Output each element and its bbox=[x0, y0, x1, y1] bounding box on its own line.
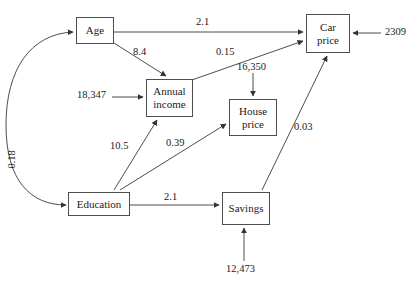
node-house-price-label: House price bbox=[237, 105, 269, 131]
edge-label-annual-income-error: 18,347 bbox=[77, 90, 106, 101]
node-age[interactable]: Age bbox=[76, 17, 114, 44]
edge-label-education-to-savings: 2.1 bbox=[164, 192, 177, 203]
edge-education-to-annual-income bbox=[114, 120, 157, 190]
edge-age-education-covariance bbox=[6, 32, 73, 205]
path-diagram: Age Car price Annual income House price … bbox=[0, 0, 420, 294]
edge-label-age-to-annual-income: 8.4 bbox=[133, 47, 146, 58]
node-car-price-label: Car price bbox=[315, 21, 341, 47]
node-annual-income[interactable]: Annual income bbox=[146, 79, 193, 117]
edge-label-house-price-error: 16,350 bbox=[237, 62, 266, 73]
node-annual-income-label: Annual income bbox=[151, 85, 187, 111]
node-age-label: Age bbox=[84, 24, 106, 37]
diagram-edges-layer bbox=[0, 0, 420, 294]
edge-education-to-house-price bbox=[120, 124, 226, 190]
node-savings[interactable]: Savings bbox=[222, 192, 270, 225]
edge-label-education-to-annual-income: 10.5 bbox=[110, 141, 128, 152]
node-education[interactable]: Education bbox=[68, 192, 130, 216]
edge-label-age-education-covariance: 0.18 bbox=[7, 150, 18, 168]
edge-label-education-to-house-price: 0.39 bbox=[166, 138, 184, 149]
edge-label-age-to-car-price: 2.1 bbox=[196, 17, 209, 28]
node-education-label: Education bbox=[75, 198, 124, 211]
edge-label-education-to-car-price: 0.03 bbox=[294, 122, 312, 133]
node-savings-label: Savings bbox=[227, 202, 266, 215]
edge-label-annual-income-to-car-price: 0.15 bbox=[216, 47, 234, 58]
edge-label-car-price-error: 2309 bbox=[385, 27, 406, 38]
edge-label-savings-error: 12,473 bbox=[226, 264, 255, 275]
node-car-price[interactable]: Car price bbox=[306, 14, 350, 53]
node-house-price[interactable]: House price bbox=[229, 99, 277, 136]
